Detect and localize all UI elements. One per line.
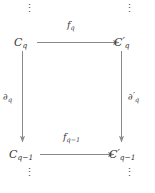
node-top-right: C′q: [114, 36, 130, 48]
arrow-label-left: ∂q: [3, 92, 12, 102]
node-bottom-right: C′q−1: [109, 148, 136, 160]
arrow-label-bottom: fq−1: [63, 132, 80, 142]
vertical-ellipsis-top-right: ⋮: [124, 3, 135, 14]
arrow-label-top: fq: [67, 20, 75, 30]
node-bottom-right-sub: q−1: [120, 153, 136, 162]
node-bottom-left: Cq−1: [9, 148, 33, 160]
arrow-label-right-sub: q: [135, 96, 139, 104]
node-top-left: Cq: [14, 36, 27, 48]
commutative-diagram: ⋮ ⋮ ⋮ ⋮ Cq C′q Cq−1 C′q−1 fq fq−1 ∂q ∂′q: [0, 0, 155, 193]
vertical-ellipsis-bottom-left: ⋮: [24, 167, 35, 178]
arrow-label-left-sub: q: [8, 96, 12, 104]
node-top-right-sub: q: [125, 41, 130, 50]
vertical-ellipsis-bottom-right: ⋮: [124, 167, 135, 178]
node-bottom-left-sub: q−1: [17, 153, 33, 162]
arrow-label-top-sub: q: [71, 24, 75, 32]
arrow-label-right: ∂′q: [128, 92, 139, 102]
vertical-ellipsis-top-left: ⋮: [24, 3, 35, 14]
arrow-label-bottom-sub: q−1: [67, 136, 81, 144]
node-top-left-sub: q: [22, 41, 27, 50]
